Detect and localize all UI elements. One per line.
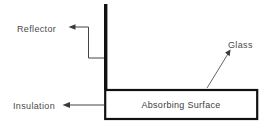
reflector-label: Reflector [17,24,56,34]
reflector-bar-shape [104,4,107,90]
glass-label: Glass [228,40,253,50]
reflector-leader-line [74,27,104,58]
diagram-canvas: Reflector Insulation Glass Absorbing Sur… [0,0,275,131]
glass-arrow-icon [225,50,231,57]
glass-leader-line [207,53,229,88]
reflector-arrow-icon [69,24,76,30]
insulation-arrow-icon [63,102,71,108]
insulation-label: Insulation [13,101,55,111]
absorbing-surface-label: Absorbing Surface [141,100,220,110]
solar-collector-diagram: Reflector Insulation Glass Absorbing Sur… [0,0,275,131]
